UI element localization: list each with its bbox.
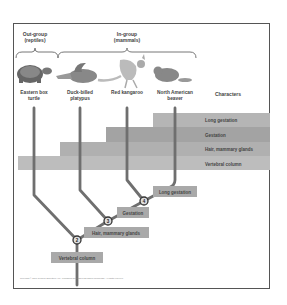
turtle-icon (17, 65, 52, 83)
svg-text:Long gestation: Long gestation (205, 118, 237, 123)
node-marker-3: 3 (104, 217, 112, 225)
svg-text:Duck-billed: Duck-billed (67, 90, 93, 95)
outgroup-subtitle: (reptiles) (24, 37, 45, 43)
outgroup-header: Out-group (reptiles) (16, 31, 58, 58)
node-labels: Long gestation Gestation Hair, mammary g… (51, 186, 197, 263)
bar-gestation (106, 127, 270, 142)
taxon-label-beaver: North American beaver (157, 90, 193, 101)
svg-text:turtle: turtle (28, 96, 40, 101)
svg-text:platypus: platypus (70, 96, 90, 101)
svg-text:North American: North American (157, 90, 193, 95)
taxon-label-kangaroo: Red kangaroo (111, 90, 143, 95)
node-marker-2: 2 (73, 236, 81, 244)
platypus-icon (56, 63, 97, 83)
svg-text:beaver: beaver (167, 96, 183, 101)
svg-text:Vertebral column: Vertebral column (59, 256, 96, 261)
svg-text:Red kangaroo: Red kangaroo (111, 90, 143, 95)
node-marker-4: 4 (140, 197, 148, 205)
svg-text:Hair, mammary glands: Hair, mammary glands (205, 147, 254, 152)
characters-header: Characters (215, 91, 241, 97)
svg-text:Eastern box: Eastern box (20, 90, 48, 95)
svg-text:Hair, mammary glands: Hair, mammary glands (92, 231, 141, 236)
svg-text:Vertebral column: Vertebral column (205, 162, 242, 167)
taxon-label-turtle: Eastern box turtle (20, 90, 48, 101)
svg-text:Gestation: Gestation (123, 211, 144, 216)
taxon-label-platypus: Duck-billed platypus (67, 90, 93, 101)
kangaroo-icon (98, 54, 145, 88)
ingroup-subtitle: (mammals) (114, 37, 141, 43)
ingroup-header: In-group (mammals) (58, 31, 196, 58)
cladogram: Out-group (reptiles) In-group (mammals) … (0, 0, 287, 305)
beaver-icon (154, 67, 193, 83)
copyright-text: Copyright © 2007 Pearson Education, Inc.… (20, 277, 124, 280)
character-bars: Long gestation Gestation Hair, mammary g… (18, 113, 270, 170)
svg-text:Gestation: Gestation (205, 133, 226, 138)
svg-text:Long gestation: Long gestation (159, 190, 191, 195)
